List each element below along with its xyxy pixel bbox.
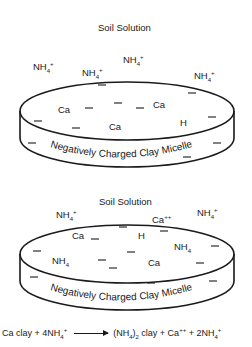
micelle-label-2: Negatively Charged Clay Micelle xyxy=(49,281,193,302)
micelle-ion-ca-1: Ca xyxy=(58,105,70,115)
micelle-ion-ca-4: Ca xyxy=(72,231,84,241)
micelle-ion-h-2: H xyxy=(138,231,145,241)
diagram-drawing: Negatively Charged Clay Micelle Negative… xyxy=(0,0,252,347)
ion-nh4-5: NH4+ xyxy=(56,210,77,220)
reaction-arrow-icon xyxy=(74,333,108,334)
ion-nh4-3: NH4+ xyxy=(123,55,144,65)
soil-solution-title-1: Soil Solution xyxy=(98,22,151,33)
soil-solution-title-2: Soil Solution xyxy=(99,196,152,207)
micelle-ion-ca-5: Ca xyxy=(148,258,160,268)
micelle-ion-ca-2: Ca xyxy=(153,100,165,110)
micelle-ion-nh4-1: NH4 xyxy=(174,242,191,252)
micelle-ion-h: H xyxy=(180,118,187,128)
micelle-ion-nh4-2: NH4 xyxy=(52,256,69,266)
exchange-equation: Ca clay + 4NH4+ (NH4)2 clay + Ca++ + 2NH… xyxy=(2,328,221,338)
ion-nh4-4: NH4+ xyxy=(194,71,215,81)
ion-ca-plusplus: Ca++ xyxy=(152,215,171,225)
micelle-label-1: Negatively Charged Clay Micelle xyxy=(49,138,193,159)
ion-nh4-6: NH4+ xyxy=(197,208,218,218)
micelle-ion-ca-3: Ca xyxy=(109,122,121,132)
ion-nh4-2: NH4+ xyxy=(82,68,103,78)
ion-nh4-1: NH4+ xyxy=(33,62,54,72)
